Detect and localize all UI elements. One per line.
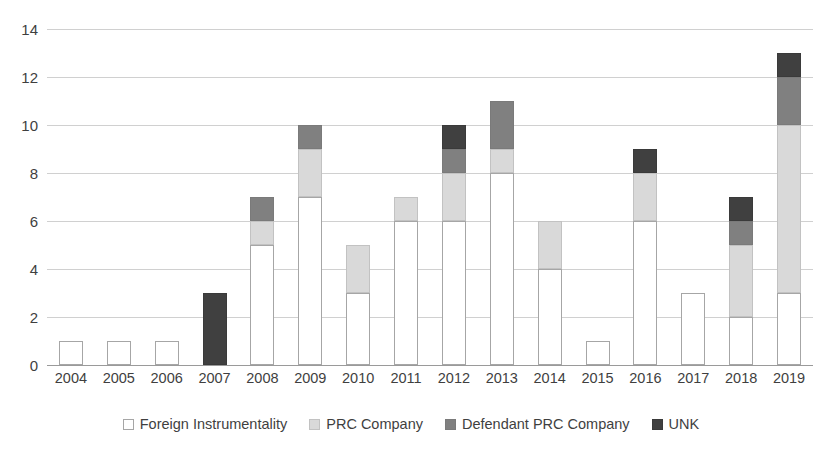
bar-segment-2012-defprc[interactable] [442,149,466,173]
x-axis-tick-labels: 2004200520062007200820092010201120122013… [47,370,813,392]
bar-segment-2019-defprc[interactable] [777,77,801,125]
bar-group-2009[interactable] [298,29,322,365]
bar-segment-2009-prc[interactable] [298,149,322,197]
x-tick-label-2008: 2008 [238,370,286,386]
bar-segment-2016-foreign[interactable] [633,221,657,365]
bar-group-2014[interactable] [538,29,562,365]
legend-label: UNK [669,416,700,432]
bar-segment-2007-unk[interactable] [203,293,227,365]
bar-segment-2009-defprc[interactable] [298,125,322,149]
bar-group-2010[interactable] [346,29,370,365]
bar-segment-2005-foreign[interactable] [107,341,131,365]
x-tick-label-2018: 2018 [717,370,765,386]
x-tick-label-2013: 2013 [478,370,526,386]
bar-segment-2011-prc[interactable] [394,197,418,221]
bar-segment-2012-prc[interactable] [442,173,466,221]
bar-segment-2008-foreign[interactable] [250,245,274,365]
legend-item-defprc[interactable]: Defendant PRC Company [445,416,630,432]
x-tick-label-2010: 2010 [334,370,382,386]
bar-segment-2015-foreign[interactable] [586,341,610,365]
bar-segment-2012-unk[interactable] [442,125,466,149]
bar-segment-2018-prc[interactable] [729,245,753,317]
bar-group-2019[interactable] [777,29,801,365]
bar-segment-2013-defprc[interactable] [490,101,514,149]
x-tick-label-2011: 2011 [382,370,430,386]
bar-segment-2019-foreign[interactable] [777,293,801,365]
y-tick-label-10: 10 [0,117,38,134]
bar-group-2017[interactable] [681,29,705,365]
y-axis-tick-labels: 02468101214 [0,29,38,365]
x-tick-label-2009: 2009 [286,370,334,386]
bar-segment-2014-prc[interactable] [538,221,562,269]
chart-legend: Foreign InstrumentalityPRC CompanyDefend… [0,416,822,432]
bar-group-2007[interactable] [203,29,227,365]
bar-segment-2013-prc[interactable] [490,149,514,173]
x-tick-label-2004: 2004 [47,370,95,386]
y-tick-label-12: 12 [0,69,38,86]
bar-segment-2008-defprc[interactable] [250,197,274,221]
legend-label: Defendant PRC Company [462,416,630,432]
bar-group-2018[interactable] [729,29,753,365]
legend-swatch-foreign-icon [123,419,134,430]
x-tick-label-2017: 2017 [669,370,717,386]
x-tick-label-2019: 2019 [765,370,813,386]
bar-segment-2010-prc[interactable] [346,245,370,293]
x-tick-label-2012: 2012 [430,370,478,386]
legend-label: Foreign Instrumentality [140,416,287,432]
legend-item-unk[interactable]: UNK [652,416,700,432]
legend-item-foreign[interactable]: Foreign Instrumentality [123,416,287,432]
bar-group-2006[interactable] [155,29,179,365]
bar-segment-2011-foreign[interactable] [394,221,418,365]
bar-segment-2018-unk[interactable] [729,197,753,221]
bar-group-2015[interactable] [586,29,610,365]
stacked-bar-chart: 02468101214 2004200520062007200820092010… [0,0,822,455]
x-tick-label-2015: 2015 [574,370,622,386]
plot-area [47,29,813,365]
bar-group-2011[interactable] [394,29,418,365]
x-tick-label-2016: 2016 [621,370,669,386]
y-tick-label-0: 0 [0,357,38,374]
bar-segment-2012-foreign[interactable] [442,221,466,365]
bar-group-2016[interactable] [633,29,657,365]
bar-group-2012[interactable] [442,29,466,365]
bar-segment-2013-foreign[interactable] [490,173,514,365]
bar-group-2005[interactable] [107,29,131,365]
x-tick-label-2005: 2005 [95,370,143,386]
legend-swatch-unk-icon [652,419,663,430]
bar-group-2008[interactable] [250,29,274,365]
bar-segment-2018-defprc[interactable] [729,221,753,245]
y-tick-label-2: 2 [0,309,38,326]
bar-series-container [47,29,813,365]
bar-segment-2014-foreign[interactable] [538,269,562,365]
legend-swatch-prc-icon [309,419,320,430]
legend-label: PRC Company [326,416,423,432]
x-tick-label-2014: 2014 [526,370,574,386]
bar-segment-2010-foreign[interactable] [346,293,370,365]
bar-segment-2016-unk[interactable] [633,149,657,173]
bar-segment-2006-foreign[interactable] [155,341,179,365]
y-tick-label-6: 6 [0,213,38,230]
bar-segment-2016-prc[interactable] [633,173,657,221]
y-tick-label-8: 8 [0,165,38,182]
bar-segment-2004-foreign[interactable] [59,341,83,365]
bar-segment-2009-foreign[interactable] [298,197,322,365]
bar-group-2004[interactable] [59,29,83,365]
bar-group-2013[interactable] [490,29,514,365]
y-tick-label-4: 4 [0,261,38,278]
bar-segment-2019-prc[interactable] [777,125,801,293]
x-tick-label-2007: 2007 [191,370,239,386]
gridline-0 [47,365,813,366]
bar-segment-2017-foreign[interactable] [681,293,705,365]
legend-swatch-defprc-icon [445,419,456,430]
bar-segment-2008-prc[interactable] [250,221,274,245]
y-tick-label-14: 14 [0,21,38,38]
legend-item-prc[interactable]: PRC Company [309,416,423,432]
x-tick-label-2006: 2006 [143,370,191,386]
bar-segment-2019-unk[interactable] [777,53,801,77]
bar-segment-2018-foreign[interactable] [729,317,753,365]
